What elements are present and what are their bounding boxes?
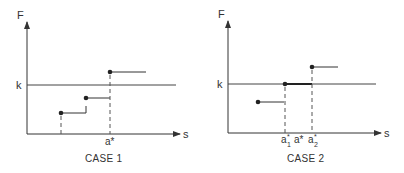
case2-a2-sub: 2	[314, 141, 318, 148]
case1-x-axis-label: s	[183, 128, 189, 140]
case2-caption: CASE 2	[287, 153, 325, 164]
case2-dot-2	[283, 82, 288, 87]
case1-panel: F s k a* CASE 1	[16, 9, 189, 164]
case2-astar-label: a*	[294, 134, 304, 145]
case2-a2-sup: *	[314, 133, 317, 140]
case2-threshold-label: k	[217, 78, 223, 90]
case2-a2-label: a * 2	[308, 133, 318, 148]
case2-dot-1	[256, 100, 261, 105]
case2-dot-3	[310, 65, 315, 70]
case1-y-axis-label: F	[17, 9, 24, 21]
case2-panel: F s k a * 1 a* a * 2 CASE 2	[217, 8, 390, 164]
case1-caption: CASE 1	[85, 153, 123, 164]
case2-y-axis-label: F	[218, 8, 225, 20]
case2-x-axis-label: s	[384, 127, 390, 139]
case1-dot-2	[84, 96, 89, 101]
case1-astar-label: a*	[105, 136, 115, 147]
case1-dot-1	[59, 111, 64, 116]
case1-threshold-label: k	[16, 79, 22, 91]
case2-a1-sub: 1	[287, 141, 291, 148]
diagram: F s k a* CASE 1 F s k a	[0, 0, 404, 173]
case2-a1-label: a * 1	[281, 133, 291, 148]
case1-dot-3	[108, 70, 113, 75]
case2-a1-sup: *	[287, 133, 290, 140]
